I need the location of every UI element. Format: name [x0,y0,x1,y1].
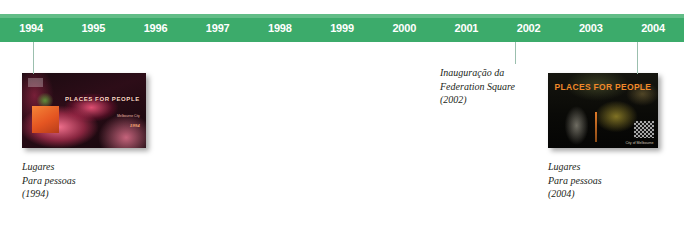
cover-left-title: PLACES FOR PEOPLE [65,96,140,104]
timeline-year-2001[interactable]: 2001 [435,14,497,42]
cover-right-title: PLACES FOR PEOPLE [555,83,652,92]
connector-line-1994 [33,42,34,74]
cover-left-corner-mark [28,78,43,87]
cover-right-title-line1: PLACES [555,82,591,92]
caption-2002-line1: Inauguração da [440,66,515,80]
cover-right-bollard [595,112,597,142]
timeline-year-2004[interactable]: 2004 [622,14,684,42]
cover-left-lamp [32,106,59,133]
connector-line-2002 [515,42,516,64]
cover-right-checker-pattern [634,121,654,138]
caption-lugares-2004: Lugares Para pessoas (2004) [548,160,602,201]
event-image-lugares-1994[interactable]: PLACES FOR PEOPLE Melbourne City 1994 [22,73,146,148]
cover-art-2004: PLACES FOR PEOPLE City of Melbourne [548,73,658,148]
cover-left-badge: 1994 [130,123,140,128]
caption-2004-line1: Lugares [548,160,602,174]
cover-left-title-line2: PEOPLE [112,96,140,102]
cover-art-1994: PLACES FOR PEOPLE Melbourne City 1994 [22,73,146,148]
event-image-lugares-2004[interactable]: PLACES FOR PEOPLE City of Melbourne [548,73,658,148]
timeline-year-2002[interactable]: 2002 [498,14,560,42]
caption-1994-line3: (1994) [22,187,76,201]
timeline-year-1994[interactable]: 1994 [0,14,62,42]
caption-2004-line3: (2004) [548,187,602,201]
cover-right-logo: City of Melbourne [625,141,653,145]
caption-2004-line2: Para pessoas [548,174,602,188]
timeline-year-2003[interactable]: 2003 [560,14,622,42]
timeline-year-1995[interactable]: 1995 [62,14,124,42]
caption-federation-square-2002: Inauguração da Federation Square (2002) [440,66,515,107]
cover-left-title-line1: PLACES FOR [65,96,110,102]
timeline-bar: 1994 1995 1996 1997 1998 1999 2000 2001 … [0,14,684,42]
timeline-year-1996[interactable]: 1996 [124,14,186,42]
caption-1994-line2: Para pessoas [22,174,76,188]
timeline-year-2000[interactable]: 2000 [373,14,435,42]
connector-line-2004 [637,42,638,74]
caption-2002-line2: Federation Square [440,80,515,94]
timeline-year-1998[interactable]: 1998 [249,14,311,42]
cover-right-title-line2: FOR PEOPLE [594,82,652,92]
cover-left-subtitle: Melbourne City [117,114,140,118]
caption-2002-line3: (2002) [440,93,515,107]
caption-lugares-1994: Lugares Para pessoas (1994) [22,160,76,201]
caption-1994-line1: Lugares [22,160,76,174]
timeline-year-1997[interactable]: 1997 [187,14,249,42]
timeline-year-1999[interactable]: 1999 [311,14,373,42]
